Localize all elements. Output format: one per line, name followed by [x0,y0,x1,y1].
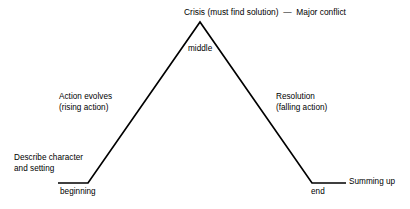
plot-arc-diagram: Crisis (must find solution) — Major conf… [0,0,410,209]
end-label: end [311,187,325,198]
summing-up-label: Summing up [349,177,395,188]
rising-action-label: Action evolves (rising action) [59,92,112,113]
crisis-label: Crisis (must find solution) — Major conf… [184,7,346,18]
describe-character-label: Describe character and setting [14,153,83,174]
middle-label: middle [188,44,212,55]
falling-action-label: Resolution (falling action) [276,92,327,113]
beginning-label: beginning [60,187,96,198]
